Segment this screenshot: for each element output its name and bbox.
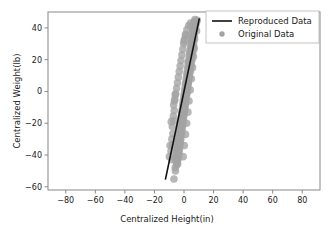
data-point — [171, 97, 179, 105]
x-tick-label: 40 — [238, 196, 248, 205]
x-tick-label: −60 — [87, 196, 104, 205]
legend-label-reproduced-data: Reproduced Data — [238, 16, 312, 26]
x-tick-label: −40 — [116, 196, 133, 205]
x-tick-label: −20 — [146, 196, 163, 205]
y-tick-label: 0 — [37, 87, 42, 96]
y-axis-label: Centralized Weight(lb) — [12, 6, 22, 196]
y-tick-label: 20 — [32, 56, 42, 65]
y-tick-label: 40 — [32, 24, 42, 33]
scatter-plot-canvas: −80−60−40−20020406080 40200−20−40−60 Rep… — [0, 0, 334, 233]
data-point — [171, 91, 179, 99]
data-point — [187, 19, 195, 27]
y-axis-tick-labels: 40200−20−40−60 — [25, 24, 42, 192]
data-point — [194, 16, 202, 24]
x-tick-label: 80 — [297, 196, 307, 205]
x-tick-label: 60 — [268, 196, 278, 205]
x-tick-label: −80 — [57, 196, 74, 205]
x-tick-label: 0 — [181, 196, 186, 205]
x-axis-ticks — [66, 190, 303, 194]
legend-label-original-data: Original Data — [238, 29, 294, 39]
data-point — [172, 167, 180, 175]
x-axis-tick-labels: −80−60−40−20020406080 — [57, 196, 307, 205]
chart-legend: Reproduced Data Original Data — [206, 11, 319, 43]
x-axis-label: Centralized Height(in) — [0, 214, 334, 224]
data-point — [180, 38, 188, 46]
x-tick-label: 20 — [208, 196, 218, 205]
y-tick-label: −60 — [25, 183, 42, 192]
legend-marker-swatch — [219, 31, 224, 36]
y-tick-label: −40 — [25, 151, 42, 160]
chart-figure: −80−60−40−20020406080 40200−20−40−60 Rep… — [0, 0, 334, 233]
y-axis-ticks — [45, 28, 49, 187]
y-tick-label: −20 — [25, 119, 42, 128]
y-axis-label-wrapper: Centralized Weight(lb) — [12, 6, 26, 196]
data-point — [170, 175, 178, 183]
